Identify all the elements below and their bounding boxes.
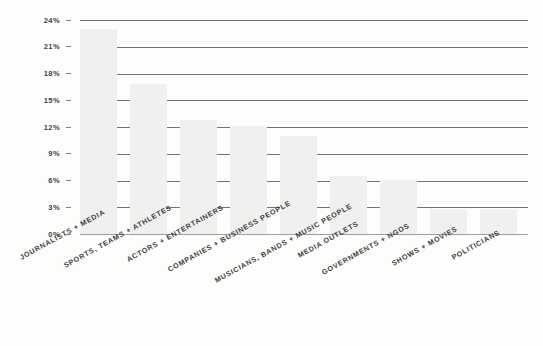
plot-area	[80, 20, 528, 234]
y-axis-tick-label: 3%	[48, 203, 60, 212]
y-axis-tick-21: 21%	[44, 41, 80, 53]
y-axis-tick-mark-icon	[66, 207, 71, 208]
y-axis-tick-label: 18%	[44, 69, 60, 78]
y-axis-tick-12: 12%	[44, 121, 80, 133]
bar-musicians-bands[interactable]	[280, 136, 317, 234]
y-axis-tick-mark-icon	[66, 127, 71, 128]
y-axis-tick-mark-icon	[66, 73, 71, 74]
bar-chart: 24% 21% 18% 15% 12% 9% 6% 3%	[0, 0, 543, 346]
y-axis-tick-label: 9%	[48, 149, 60, 158]
y-axis-tick-24: 24%	[44, 14, 80, 26]
y-axis-tick-15: 15%	[44, 94, 80, 106]
y-axis-tick-mark-icon	[66, 180, 71, 181]
y-axis-tick-label: 21%	[44, 42, 60, 51]
x-axis: JOURNALISTS + MEDIA SPORTS, TEAMS + ATHL…	[0, 234, 543, 346]
y-axis-tick-mark-icon	[66, 46, 71, 47]
y-axis-tick-label: 6%	[48, 176, 60, 185]
bar-journalists-media[interactable]	[80, 29, 117, 234]
y-axis-tick-mark-icon	[66, 153, 71, 154]
x-axis-label-politicians: POLITICIANS	[450, 228, 501, 262]
y-axis: 24% 21% 18% 15% 12% 9% 6% 3%	[0, 0, 80, 260]
y-axis-tick-label: 15%	[44, 96, 60, 105]
y-axis-tick-mark-icon	[66, 20, 71, 21]
bars-layer	[80, 20, 528, 234]
y-axis-tick-label: 24%	[44, 16, 60, 25]
y-axis-tick-label: 12%	[44, 123, 60, 132]
y-axis-tick-9: 9%	[48, 148, 80, 160]
y-axis-tick-18: 18%	[44, 68, 80, 80]
y-axis-tick-mark-icon	[66, 100, 71, 101]
y-axis-tick-6: 6%	[48, 175, 80, 187]
y-axis-tick-3: 3%	[48, 201, 80, 213]
